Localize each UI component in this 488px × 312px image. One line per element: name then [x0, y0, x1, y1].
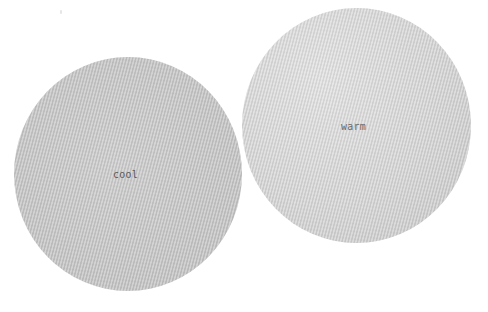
cool-swatch-label: cool	[113, 169, 138, 181]
warm-swatch-label: warm	[341, 121, 366, 133]
cool-swatch-circle[interactable]: cool	[14, 57, 242, 291]
warm-swatch-circle[interactable]: warm	[242, 8, 471, 243]
artifact-speck	[60, 10, 62, 14]
